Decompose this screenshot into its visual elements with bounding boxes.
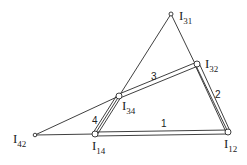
pivot-i32 <box>194 61 200 67</box>
line-i42-i14 <box>35 134 95 135</box>
pivot-i31 <box>169 12 173 16</box>
link-2-label: 2 <box>215 89 221 100</box>
label-i42: I42 <box>13 131 26 149</box>
line-i31-i12 <box>171 14 228 132</box>
label-i34: I34 <box>122 98 136 116</box>
link-3-label: 3 <box>151 71 157 82</box>
pivot-i42 <box>33 133 37 137</box>
link-1-label: 1 <box>161 118 167 129</box>
link-4-label: 4 <box>92 115 98 126</box>
linkage-diagram: I31 I32 I34 I14 I12 I42 1 2 3 4 <box>0 0 247 165</box>
label-i12: I12 <box>224 136 237 154</box>
label-i31: I31 <box>179 8 192 26</box>
line-i31-i14 <box>95 14 171 134</box>
link-3 <box>119 62 198 98</box>
pivot-i12 <box>225 129 231 135</box>
label-i14: I14 <box>92 138 106 156</box>
pivot-i14 <box>92 131 98 137</box>
link-1 <box>95 130 228 136</box>
label-i32: I32 <box>205 56 218 74</box>
